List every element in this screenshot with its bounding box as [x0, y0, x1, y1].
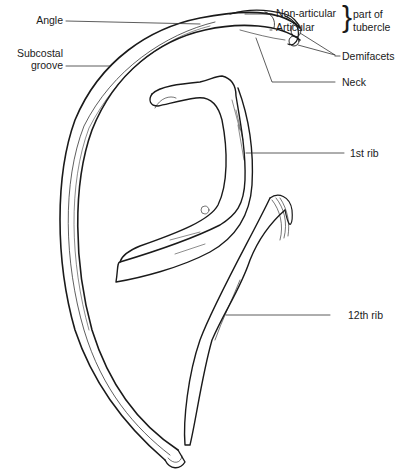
label-tubercle: tubercle: [353, 21, 390, 33]
first-rib-shape: [116, 76, 252, 282]
label-twelfth-rib: 12th rib: [348, 309, 383, 321]
label-subcostal-2: groove: [0, 59, 63, 71]
rib-illustration: [0, 0, 415, 475]
label-demifacets: Demifacets: [342, 50, 395, 62]
rib-diagram: Angle Subcostal groove Non-articular Art…: [0, 0, 415, 475]
label-non-articular: Non-articular: [276, 7, 336, 19]
brace-symbol: }: [342, 3, 352, 31]
label-angle: Angle: [18, 14, 63, 26]
label-first-rib: 1st rib: [350, 147, 379, 159]
label-part-of: part of: [353, 8, 383, 20]
label-articular: Articular: [276, 21, 315, 33]
label-neck: Neck: [342, 76, 366, 88]
typical-rib-shape: [60, 10, 301, 468]
label-subcostal-1: Subcostal: [0, 47, 63, 59]
leader-lines: [66, 14, 344, 315]
twelfth-rib-shape: [185, 195, 293, 445]
